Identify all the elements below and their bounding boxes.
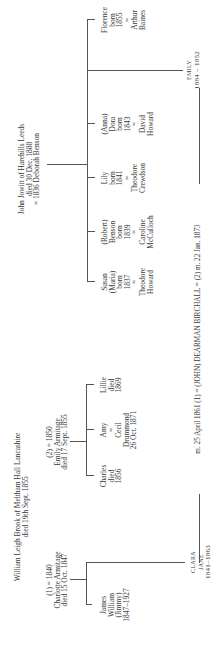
amy-drop <box>86 429 94 430</box>
lily: Lily born 1841 = Theodore Crewdson <box>101 156 147 200</box>
brook-head: William Leigh Brook of Meltham Hall Lanc… <box>14 422 29 592</box>
jowitt-stem <box>47 164 87 165</box>
family-tree-page: William Leigh Brook of Meltham Hall Lanc… <box>0 0 224 662</box>
lillie-drop <box>86 384 94 385</box>
marriage-1-stem <box>70 579 86 580</box>
marriage-2-death: died 17 Sept. 1855 <box>61 410 69 474</box>
susan-drop <box>87 281 95 282</box>
child-line: Howard <box>147 262 155 302</box>
child-line: 1856 <box>115 460 123 492</box>
robert-drop <box>87 231 95 232</box>
lillie: Lillie died 1869 <box>100 370 123 400</box>
clara-line <box>86 562 185 563</box>
marriage-2-sibling-bar <box>86 385 87 476</box>
anna-dora: (Anna) Dora born 1843 = David Howard <box>101 104 154 144</box>
clara-name: CLARA <box>190 540 198 584</box>
child-line: 1847–1927 <box>123 585 131 625</box>
james-william: James William (Jimmy) 1847–1927 <box>100 585 130 625</box>
child-line: 1869 <box>115 370 123 400</box>
brook-death: died 19th Sept. 1855 <box>22 422 30 592</box>
emily-line <box>87 70 183 71</box>
emily: EMILY 1884 – 1852 <box>186 49 201 91</box>
child-line: McCulloch <box>147 209 155 255</box>
birchall-text: m. 25 April 1861 (1) = (JOHN) DEARMAN BI… <box>194 224 202 453</box>
jowitt-sibling-bar <box>87 20 88 282</box>
florence-drop <box>87 19 95 20</box>
jowitt-head: John Jowitt of Harehills Leeds died 30 D… <box>18 101 41 237</box>
lily-drop <box>87 177 95 178</box>
child-line: Howard <box>147 104 155 144</box>
anna-drop <box>87 123 95 124</box>
clara-jane: CLARA JANE 1841–1863 <box>190 540 213 584</box>
charles: Charles died 1856 <box>100 460 123 492</box>
clara-dates: 1841–1863 <box>205 540 213 584</box>
clara-marriage-connector <box>199 494 200 563</box>
child-line: Crewdson <box>139 156 147 200</box>
marriage-1-sibling-bar <box>86 562 87 605</box>
marriage-1-death: died 15 Oct. 1847 <box>61 548 69 612</box>
birchall-marriage-text: m. 25 April 1861 (1) = (JOHN) DEARMAN BI… <box>195 184 203 494</box>
emily-dates: 1884 – 1852 <box>194 49 202 91</box>
james-drop <box>86 604 92 605</box>
child-line: Baines <box>139 0 147 40</box>
marriage-2-stem <box>70 441 86 442</box>
brook-marriage-2: (2) = 1850 Emily Armitage died 17 Sept. … <box>46 410 69 474</box>
jowitt-marriage: = 1836 Deborah Benson <box>33 101 41 237</box>
child-line: 26 Oct. 1871 <box>130 405 138 455</box>
robert: (Robert) Benson born 1839 = Caroline McC… <box>101 209 154 255</box>
emily-marriage-connector <box>199 88 200 184</box>
susan: Susan (Maria) born 1837 = Theodore Howar… <box>101 262 154 302</box>
brook-marriage-1: (1) = 1840 Charlotte Armitage died 15 Oc… <box>46 548 69 612</box>
amy: Amy = Cecil Drummond 26 Oct. 1871 <box>100 405 138 455</box>
florence: Florence born 1855 = Arthur Baines <box>101 0 147 40</box>
charles-drop <box>86 475 94 476</box>
